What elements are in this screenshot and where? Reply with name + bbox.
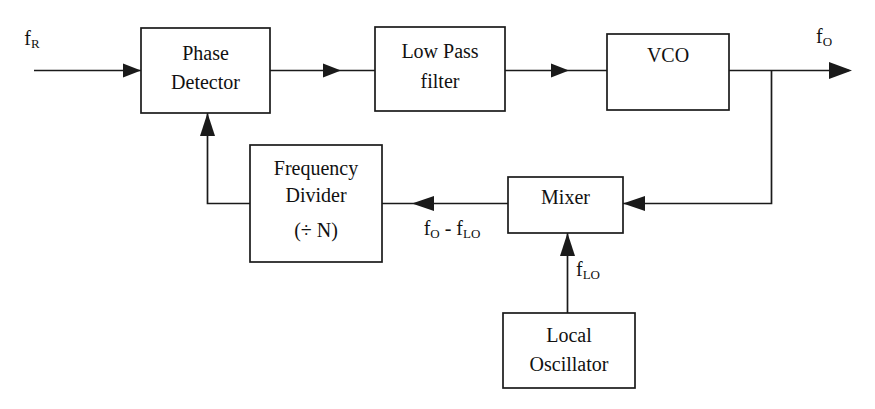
frequency-divider-label-line1: Frequency [274,157,358,180]
fr-sub: R [31,36,40,51]
fo-sub: O [823,34,832,49]
arrowhead-into-phase-detector-bottom [200,113,215,136]
block-vco[interactable]: VCO [607,34,729,110]
wire-frequency-divider-to-phase-detector [200,113,250,204]
svg-text:fLO: fLO [576,258,600,282]
block-frequency-divider[interactable]: Frequency Divider (÷ N) [250,145,382,262]
signal-label-local-oscillator: fLO [576,258,600,282]
arrowhead-into-phase-detector [123,64,141,78]
svg-text:fR: fR [24,27,40,51]
flo-sub: LO [583,267,600,282]
vco-label: VCO [647,44,689,66]
wire-phase-detector-to-low-pass-filter [270,64,375,78]
arrowhead-into-mixer-right [623,196,645,211]
wire-low-pass-filter-to-vco [505,64,607,78]
block-mixer[interactable]: Mixer [508,177,623,233]
fo-flo-sub2: LO [463,226,480,241]
wire-vco-to-output [729,62,852,79]
svg-text:fO: fO [816,25,832,49]
arrowhead-into-mixer-bottom [560,233,575,256]
block-diagram: Phase Detector Low Pass filter VCO Frequ… [0,0,875,409]
fo-flo-base2: - f [440,217,464,239]
phase-detector-label-line1: Phase [182,42,229,64]
arrowhead-output [829,62,852,79]
signal-label-reference-input: fR [24,27,40,51]
signal-label-mixer-output: fO - fLO [424,217,481,241]
local-oscillator-label-line2: Oscillator [530,353,609,375]
wire-mixer-to-frequency-divider [382,196,508,211]
mixer-label: Mixer [541,186,590,208]
frequency-divider-label-line3: (÷ N) [294,219,338,242]
fo-flo-sub: O [430,226,439,241]
phase-detector-label-line2: Detector [171,71,240,93]
diagram-canvas: Phase Detector Low Pass filter VCO Frequ… [0,0,875,409]
arrowhead-into-low-pass-filter [323,64,341,78]
signal-label-output: fO [816,25,832,49]
svg-text:fO - fLO: fO - fLO [424,217,481,241]
block-low-pass-filter[interactable]: Low Pass filter [375,27,505,111]
low-pass-filter-label-line1: Low Pass [401,40,478,62]
block-local-oscillator[interactable]: Local Oscillator [503,313,635,388]
wire-reference-to-phase-detector [34,64,141,78]
wire-local-oscillator-to-mixer [560,233,575,313]
arrowhead-into-frequency-divider [412,196,434,211]
local-oscillator-label-line1: Local [546,324,592,346]
arrowhead-into-vco [551,64,569,78]
frequency-divider-label-line2: Divider [285,184,346,206]
block-phase-detector[interactable]: Phase Detector [141,28,270,113]
low-pass-filter-label-line2: filter [421,70,460,92]
